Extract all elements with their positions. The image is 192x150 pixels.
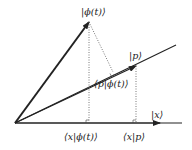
x-phi-bracket-label: ⟨x|ϕ(t)⟩: [64, 131, 98, 143]
phi-to-p-projection: [89, 22, 113, 72]
phi-state-vector: [15, 22, 89, 123]
x-p-bracket-label: ⟨x|p⟩: [123, 131, 145, 143]
x-ket-label: |x⟩: [151, 109, 163, 121]
projection-diagram: |ϕ(t)⟩ |p⟩ ⟨p|ϕ(t)⟩ |x⟩ ⟨x|ϕ(t)⟩ ⟨x|p⟩: [0, 0, 192, 150]
p-phi-bracket-label: ⟨p|ϕ(t)⟩: [94, 78, 128, 90]
phi-ket-label: |ϕ(t)⟩: [81, 6, 106, 18]
p-ket-label: |p⟩: [129, 50, 142, 62]
p-basis-vector: [15, 66, 136, 123]
